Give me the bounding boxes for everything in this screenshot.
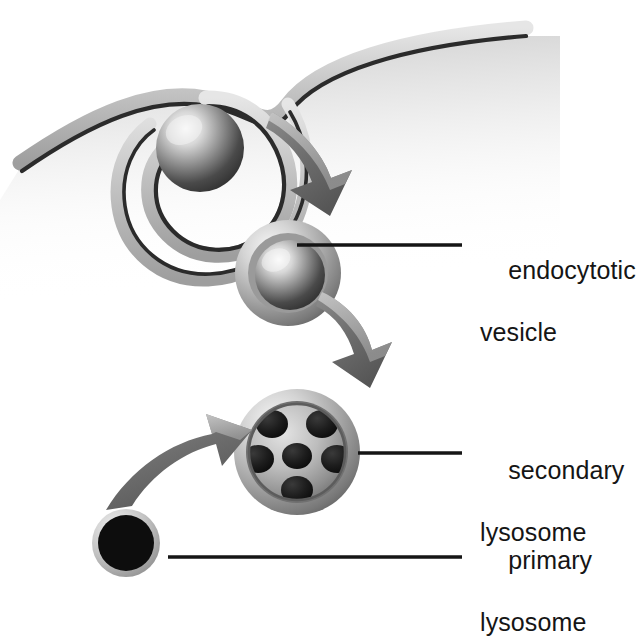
label-endocytotic-vesicle: endocytotic vesicle <box>480 224 636 410</box>
secondary-lysosome <box>234 389 360 515</box>
label-endocytotic-vesicle-line1: endocytotic <box>508 256 636 284</box>
arrow-primary-to-secondary <box>106 414 252 510</box>
engulfed-particle <box>156 104 244 192</box>
label-primary-lysosome: primary lysosome <box>480 514 592 640</box>
label-primary-lysosome-line1: primary <box>508 546 592 574</box>
label-secondary-lysosome-line1: secondary <box>508 456 624 484</box>
primary-lysosome <box>92 509 160 577</box>
label-primary-lysosome-line2: lysosome <box>480 607 592 638</box>
label-endocytotic-vesicle-line2: vesicle <box>480 317 636 348</box>
arrow-vesicle-to-lysosome <box>316 292 392 388</box>
